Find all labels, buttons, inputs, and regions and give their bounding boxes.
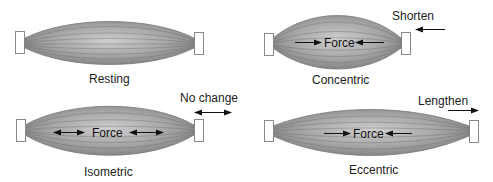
force-label-concentric: Force xyxy=(324,37,355,49)
motion-label-shorten: Shorten xyxy=(392,10,434,22)
label-isometric: Isometric xyxy=(84,166,133,178)
tendon-right xyxy=(195,33,204,55)
force-label-isometric: Force xyxy=(92,127,123,139)
tendon-right xyxy=(402,33,411,55)
label-concentric: Concentric xyxy=(312,74,369,86)
motion-label-no-change: No change xyxy=(180,92,238,104)
label-resting: Resting xyxy=(89,73,130,85)
label-eccentric: Eccentric xyxy=(349,164,398,176)
force-label-eccentric: Force xyxy=(353,128,384,140)
diagram-canvas xyxy=(0,0,493,182)
motion-label-lengthen: Lengthen xyxy=(418,95,468,107)
tendon-right xyxy=(470,121,479,143)
tendon-left xyxy=(17,120,26,142)
tendon-left xyxy=(16,32,25,54)
muscle-belly xyxy=(25,22,194,65)
tendon-right xyxy=(195,120,204,142)
panel-resting xyxy=(16,22,204,65)
panel-isometric xyxy=(17,106,232,155)
muscle-contraction-diagram: Resting Force Concentric Shorten Force I… xyxy=(0,0,493,182)
tendon-left xyxy=(265,34,274,56)
tendon-left xyxy=(265,121,274,142)
